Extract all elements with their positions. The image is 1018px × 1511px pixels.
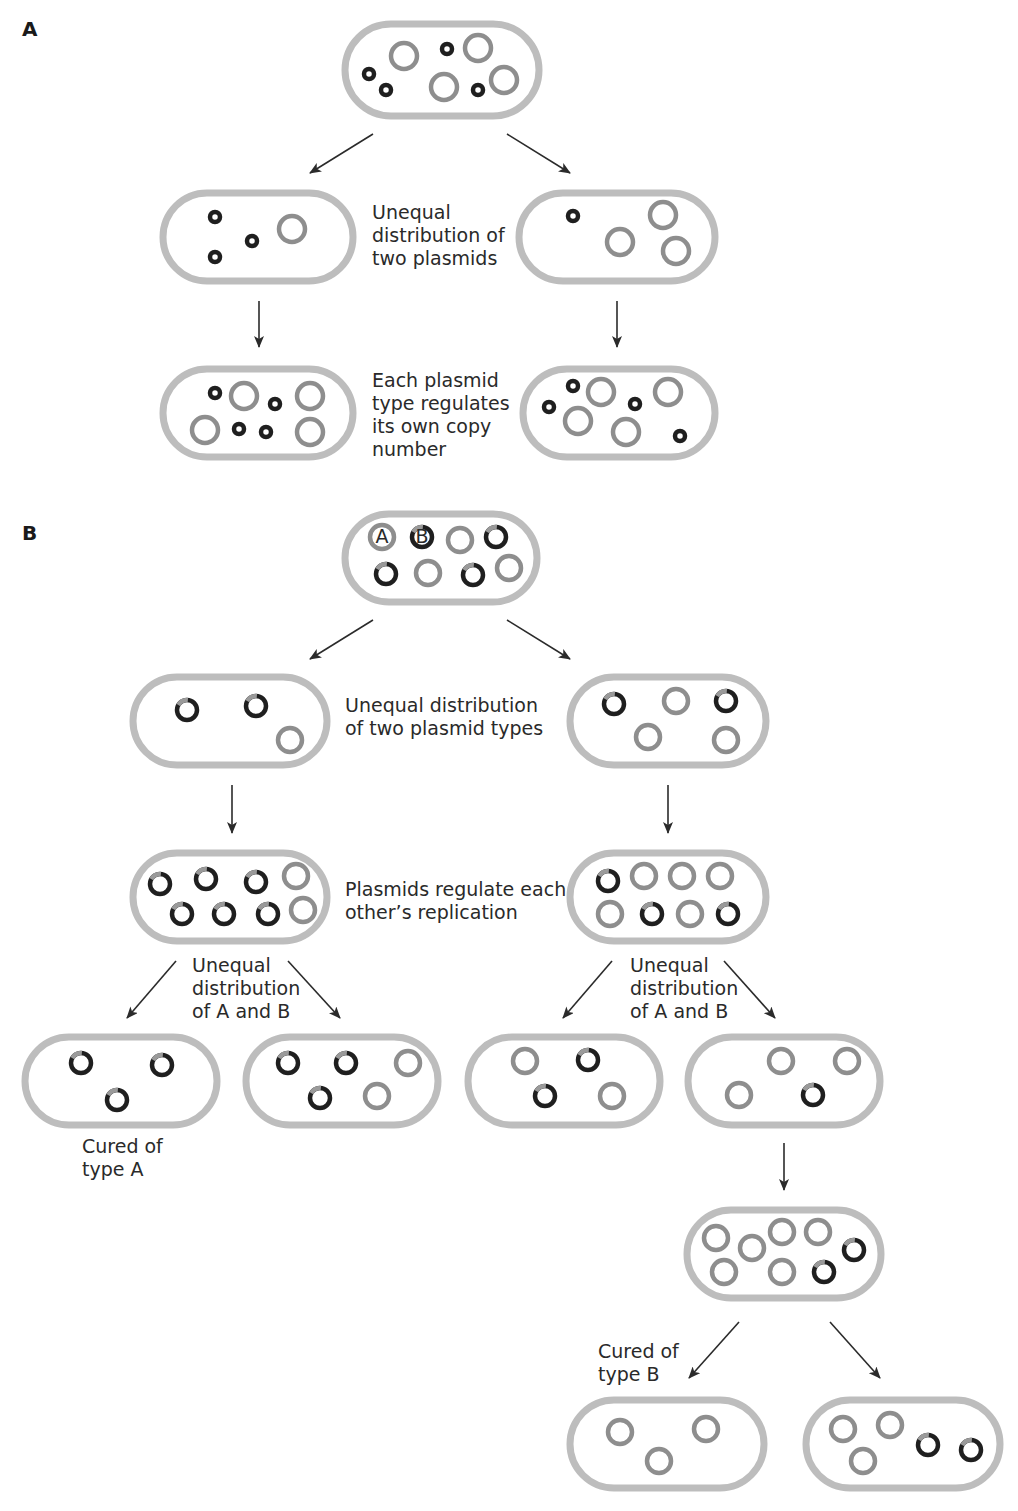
- label-line: its own copy: [372, 415, 491, 437]
- label-line: distribution of: [372, 224, 506, 246]
- panel-letter-b: B: [22, 521, 37, 545]
- label-line: Cured of: [82, 1135, 164, 1157]
- arrow: [507, 134, 570, 173]
- label-b-unequal: Unequal distributionof two plasmid types: [345, 694, 543, 739]
- cell-b-right-5b: [806, 1400, 1000, 1488]
- plasmid-label: B: [415, 525, 428, 547]
- cell-wall: [25, 1037, 217, 1125]
- label-line: other’s replication: [345, 901, 518, 923]
- cell-b-right-2: [570, 853, 766, 941]
- label-line: type A: [82, 1158, 143, 1180]
- cell-a-left-2: [163, 369, 353, 457]
- cell-b-right-5a: [570, 1400, 764, 1488]
- plasmid-incompatibility-diagram: AB Unequaldistribution oftwo plasmidsEac…: [0, 0, 1018, 1511]
- label-b-unequal-ab-right: Unequaldistributionof A and B: [630, 954, 738, 1022]
- label-line: Unequal: [192, 954, 271, 976]
- label-line: distribution: [630, 977, 738, 999]
- label-line: of A and B: [630, 1000, 728, 1022]
- label-line: of A and B: [192, 1000, 290, 1022]
- cell-b-right-3b: [688, 1037, 880, 1125]
- label-line: Unequal: [630, 954, 709, 976]
- label-a-regulates: Each plasmidtype regulatesits own copynu…: [372, 369, 510, 460]
- label-line: Each plasmid: [372, 369, 499, 391]
- cell-wall: [570, 853, 766, 941]
- arrow: [310, 134, 373, 173]
- arrow: [830, 1322, 880, 1378]
- label-line: two plasmids: [372, 247, 497, 269]
- label-line: of two plasmid types: [345, 717, 543, 739]
- arrow: [689, 1322, 739, 1378]
- cell-wall: [519, 193, 715, 281]
- panel-letter-a: A: [22, 17, 38, 41]
- cell-b-right-4: [687, 1210, 881, 1298]
- label-b-unequal-ab-left: Unequaldistributionof A and B: [192, 954, 300, 1022]
- cell-b-right-1: [570, 677, 766, 765]
- label-line: distribution: [192, 977, 300, 999]
- label-line: type B: [598, 1363, 660, 1385]
- cell-wall: [806, 1400, 1000, 1488]
- label-line: Unequal distribution: [345, 694, 538, 716]
- cells: AB: [25, 24, 1000, 1488]
- cell-b-left-2: [133, 853, 327, 941]
- cell-b-right-3a: [468, 1037, 660, 1125]
- cell-a-right-1: [519, 193, 715, 281]
- label-b-cured-a: Cured oftype A: [82, 1135, 164, 1180]
- label-line: number: [372, 438, 446, 460]
- cell-b-left-3b: [246, 1037, 438, 1125]
- label-line: type regulates: [372, 392, 510, 414]
- cell-a-right-2: [523, 369, 715, 457]
- arrow: [127, 961, 176, 1018]
- cell-b-left-1: [133, 677, 327, 765]
- arrow: [507, 620, 570, 659]
- label-line: Cured of: [598, 1340, 680, 1362]
- cell-wall: [163, 369, 353, 457]
- plasmid-label: A: [376, 525, 389, 547]
- arrow: [310, 620, 373, 659]
- cell-wall: [468, 1037, 660, 1125]
- label-line: Plasmids regulate each: [345, 878, 566, 900]
- cell-b-left-3a: [25, 1037, 217, 1125]
- label-line: Unequal: [372, 201, 451, 223]
- cell-b-parent: AB: [345, 514, 537, 602]
- cell-wall: [570, 1400, 764, 1488]
- label-b-regulate-each: Plasmids regulate eachother’s replicatio…: [345, 878, 566, 923]
- panel-letters: AB: [22, 17, 38, 545]
- cell-a-parent: [345, 24, 539, 116]
- label-b-cured-b: Cured oftype B: [598, 1340, 680, 1385]
- cell-a-left-1: [163, 193, 353, 281]
- arrow: [563, 961, 612, 1018]
- label-a-unequal: Unequaldistribution oftwo plasmids: [372, 201, 506, 269]
